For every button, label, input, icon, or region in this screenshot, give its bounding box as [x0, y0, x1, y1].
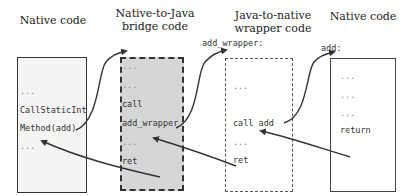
return-arrow-native-to-wrapper: [261, 131, 350, 157]
arrows-layer: [0, 0, 409, 196]
call-arrow-native-to-bridge: [76, 51, 126, 130]
return-arrow-bridge-to-native: [42, 141, 160, 177]
return-arrow-wrapper-to-bridge: [154, 138, 236, 166]
call-arrow-wrapper-to-native: [284, 52, 334, 123]
call-arrow-bridge-to-wrapper: [176, 50, 226, 128]
